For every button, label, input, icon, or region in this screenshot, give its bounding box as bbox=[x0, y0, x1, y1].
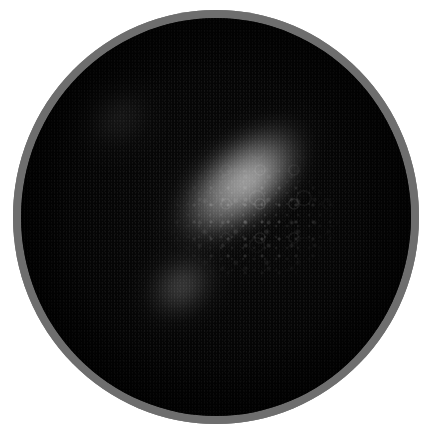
image-canvas bbox=[0, 0, 430, 435]
culture-dish bbox=[13, 10, 419, 424]
dish-interior-field bbox=[21, 18, 411, 416]
edge-vignette bbox=[21, 18, 411, 416]
